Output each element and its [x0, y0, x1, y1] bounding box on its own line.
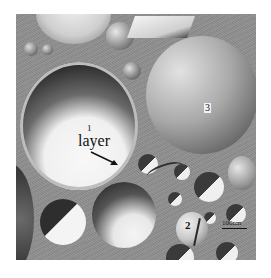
- vesicle-concave: [166, 244, 194, 260]
- vesicle-concave: [40, 199, 86, 245]
- label-vesicle-3: 3: [204, 103, 211, 113]
- vesicle-2: [176, 212, 208, 246]
- fracture-plate: [127, 16, 195, 38]
- scale-bar: 100nm: [222, 220, 247, 229]
- vesicle-1: [20, 62, 138, 190]
- vesicle-left-edge: [16, 164, 34, 260]
- vesicle-convex: [228, 156, 256, 190]
- label-layer: layer: [78, 133, 110, 149]
- vesicle-concave: [168, 192, 182, 206]
- vesicle-small: [123, 62, 141, 80]
- label-vesicle-2: 2: [185, 220, 191, 231]
- scale-bar-label: 100nm: [222, 220, 247, 227]
- vesicle-concave: [194, 172, 224, 202]
- vesicle-small: [42, 44, 53, 55]
- micrograph: [16, 14, 256, 260]
- arrow-icon: [90, 150, 120, 168]
- vesicle-concave: [216, 242, 238, 260]
- vesicle-concave: [92, 182, 156, 248]
- scale-bar-line: [222, 228, 247, 229]
- vesicle-small: [24, 42, 38, 56]
- vesicle-3: [146, 36, 256, 154]
- vesicle-top-left: [36, 14, 111, 44]
